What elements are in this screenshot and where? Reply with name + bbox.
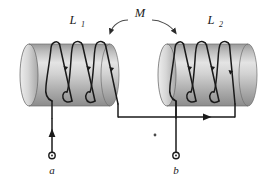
figure-mutual-inductance: L 1 M L 2 a b <box>0 0 278 180</box>
label-L2-letter: L <box>207 13 215 27</box>
mutual-arrow-to-L2 <box>152 20 175 32</box>
polarity-dot <box>154 134 157 137</box>
current-arrow-up-at-a <box>49 129 56 138</box>
terminal-node-a-center <box>51 155 53 157</box>
label-L1-subscript: 1 <box>81 20 85 29</box>
cylinder-body-L2 <box>167 44 248 106</box>
solenoid-L1 <box>20 42 119 118</box>
label-L2-subscript: 2 <box>219 20 223 29</box>
label-L1-letter: L <box>69 13 77 27</box>
label-L2: L 2 <box>207 13 223 29</box>
label-terminal-b: b <box>173 164 179 176</box>
label-L1: L 1 <box>69 13 85 29</box>
mutual-arrow-to-L1 <box>111 20 129 32</box>
solenoid-L2 <box>158 42 257 118</box>
terminal-node-b-center <box>175 155 177 157</box>
diagram-canvas: L 1 M L 2 a b <box>0 0 278 180</box>
label-M: M <box>134 6 146 20</box>
current-arrow-right-bottom-wire <box>203 114 212 121</box>
label-terminal-a: a <box>49 164 55 176</box>
cylinder-left-cap-L1 <box>20 44 38 106</box>
cylinder-right-cap-L2 <box>239 44 257 106</box>
cylinder-left-cap-L2 <box>158 44 176 106</box>
